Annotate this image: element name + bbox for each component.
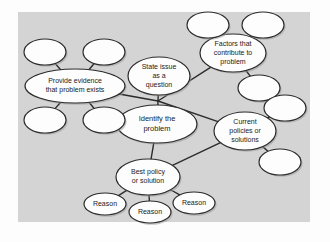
node-current-policies[interactable]: Currentpolicies orsolutions xyxy=(214,112,278,152)
concept-map: Identify theproblemState issueas aquesti… xyxy=(0,0,330,242)
node-label: Current xyxy=(233,118,256,125)
node-label: that problem exists xyxy=(46,86,105,94)
node-ellipse[interactable] xyxy=(187,12,229,38)
node-label: State issue xyxy=(142,63,177,70)
node-label: Factors that xyxy=(215,40,252,47)
node-policies-sat-top[interactable] xyxy=(264,95,308,123)
node-provide-evidence[interactable]: Provide evidencethat problem exists xyxy=(25,69,127,105)
node-policies-sat-bottom[interactable] xyxy=(259,149,303,177)
node-label: or solution xyxy=(132,177,164,184)
node-label: Best policy xyxy=(131,168,165,176)
node-identify[interactable]: Identify theproblem xyxy=(117,105,199,145)
node-label: problem xyxy=(143,124,170,133)
node-label: contribute to xyxy=(214,49,253,56)
node-reason-right[interactable]: Reason xyxy=(173,192,217,216)
node-label: solutions xyxy=(231,136,259,143)
node-ellipse[interactable] xyxy=(83,39,125,65)
node-label: Reason xyxy=(138,208,162,215)
node-state-issue[interactable]: State issueas aquestion xyxy=(128,57,192,97)
node-label: Identify the xyxy=(139,114,176,123)
node-label: question xyxy=(146,81,173,89)
node-evidence-sat-top-left[interactable] xyxy=(24,39,68,67)
node-reason-center[interactable]: Reason xyxy=(129,201,173,225)
node-ellipse[interactable] xyxy=(259,149,301,175)
node-layer: Identify theproblemState issueas aquesti… xyxy=(24,12,308,225)
edge-identify-best-policy xyxy=(151,143,154,159)
node-evidence-sat-bottom-right[interactable] xyxy=(83,107,127,135)
node-ellipse[interactable] xyxy=(264,95,306,121)
node-ellipse[interactable] xyxy=(24,39,66,65)
node-factors-sat-left[interactable] xyxy=(187,12,231,40)
node-ellipse[interactable] xyxy=(24,107,66,133)
node-ellipse[interactable] xyxy=(83,107,125,133)
edge-best-policy-reason-left xyxy=(118,190,126,195)
edge-evidence-sat-top-right xyxy=(89,63,94,69)
node-label: policies or xyxy=(229,127,261,135)
node-label: problem xyxy=(220,58,245,66)
page-root: Identify theproblemState issueas aquesti… xyxy=(0,0,330,242)
node-label: as a xyxy=(152,72,165,79)
node-reason-left[interactable]: Reason xyxy=(84,193,128,217)
edge-best-policy-current-policies xyxy=(172,143,220,166)
node-ellipse[interactable] xyxy=(242,12,284,38)
node-label: Provide evidence xyxy=(48,77,102,84)
node-evidence-sat-top-right[interactable] xyxy=(83,39,127,67)
node-label: Reason xyxy=(182,199,206,206)
node-evidence-sat-bottom-left[interactable] xyxy=(24,107,68,135)
node-label: Reason xyxy=(93,200,117,207)
